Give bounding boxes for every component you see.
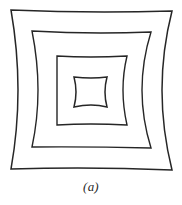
figure-panel: (a) — [0, 0, 182, 205]
figure-background — [0, 0, 182, 205]
figure-caption: (a) — [0, 179, 182, 194]
nested-squares-illustration — [0, 0, 182, 205]
